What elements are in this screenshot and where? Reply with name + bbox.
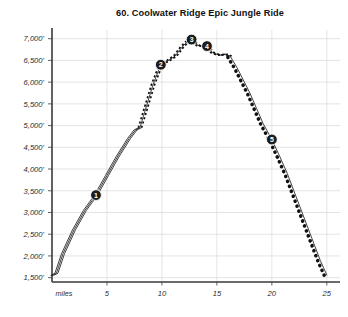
y-tick-label: 3,000' (24, 208, 45, 217)
y-axis-ticks: 7,000'6,500'6,000'5,500'5,000'4,500'4,00… (23, 34, 52, 282)
waypoint-number: 5 (270, 136, 274, 143)
route-path (51, 40, 327, 277)
x-tick-label: 25 (322, 289, 332, 298)
x-tick-label: 15 (213, 289, 222, 298)
x-axis-ticks: 510152025 (105, 282, 332, 298)
y-tick-label: 6,500' (24, 56, 45, 65)
y-tick-label: 4,500' (24, 143, 45, 152)
gridlines (52, 30, 340, 282)
waypoint-marker[interactable]: 5 (266, 134, 277, 145)
y-tick-label: 1,500' (24, 273, 45, 282)
y-tick-label: 3,500' (24, 187, 45, 196)
waypoint-number: 2 (159, 61, 163, 68)
y-tick-label: 2,500' (23, 230, 45, 239)
axis-lines (52, 28, 340, 282)
waypoint-markers: 12345 (91, 34, 278, 200)
x-tick-label: 10 (158, 289, 167, 298)
waypoint-number: 4 (205, 43, 209, 50)
x-tick-label: 20 (267, 289, 277, 298)
waypoint-number: 1 (94, 192, 98, 199)
y-tick-label: 2,000' (23, 252, 45, 261)
waypoint-marker[interactable]: 2 (155, 59, 166, 70)
waypoint-marker[interactable]: 1 (91, 190, 102, 201)
waypoint-number: 3 (190, 36, 194, 43)
y-tick-label: 5,500' (24, 100, 45, 109)
x-tick-label: 5 (105, 289, 110, 298)
y-tick-label: 7,000' (24, 34, 45, 43)
waypoint-marker[interactable]: 3 (186, 34, 197, 45)
elevation-chart: 60. Coolwater Ridge Epic Jungle Ride 7,0… (0, 0, 348, 317)
chart-plot: 7,000'6,500'6,000'5,500'5,000'4,500'4,00… (0, 0, 348, 317)
y-tick-label: 6,000' (24, 78, 45, 87)
y-tick-label: 4,000' (24, 165, 45, 174)
x-axis-label: miles (56, 289, 73, 298)
waypoint-marker[interactable]: 4 (202, 41, 213, 52)
y-tick-label: 5,000' (24, 121, 45, 130)
